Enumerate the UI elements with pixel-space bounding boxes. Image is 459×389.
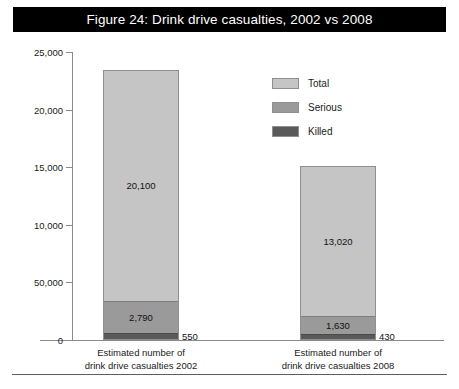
x-axis-category-2002-line2: drink drive casualties 2002 — [46, 360, 236, 373]
y-axis-tick-0 — [66, 340, 73, 341]
legend-item-serious[interactable]: Serious — [272, 95, 342, 119]
figure-container: Figure 24: Drink drive casualties, 2002 … — [0, 0, 459, 389]
legend-swatch-total-icon — [272, 78, 299, 89]
bar-2002-serious-value: 2,790 — [129, 312, 153, 323]
bar-2008-serious-value: 1,630 — [326, 320, 350, 331]
legend: Total Serious Killed — [272, 71, 342, 143]
y-axis-tick-10000 — [66, 225, 73, 226]
y-axis-tick-25000 — [66, 52, 73, 53]
bar-2008[interactable]: 13,020 1,630 430 — [300, 166, 376, 340]
y-axis-tick-20000 — [66, 110, 73, 111]
bar-2008-segment-total[interactable]: 13,020 — [301, 167, 375, 315]
bar-2002-segment-serious[interactable]: 2,790 — [104, 301, 178, 333]
bar-2002[interactable]: 20,100 2,790 550 — [103, 70, 179, 340]
legend-swatch-serious-icon — [272, 102, 299, 113]
x-axis-category-2008-line1: Estimated number of — [243, 347, 433, 360]
page-title: Figure 24: Drink drive casualties, 2002 … — [86, 12, 372, 27]
legend-item-total[interactable]: Total — [272, 71, 342, 95]
y-axis-tick-5000 — [66, 282, 73, 283]
x-axis-category-2008-line2: drink drive casualties 2008 — [243, 360, 433, 373]
bar-2002-total-value: 20,100 — [126, 180, 155, 191]
bar-2002-segment-killed[interactable]: 550 — [104, 333, 178, 339]
bar-2008-segment-killed[interactable]: 430 — [301, 334, 375, 339]
bar-2002-segment-total[interactable]: 20,100 — [104, 71, 178, 301]
legend-label-serious: Serious — [308, 102, 342, 113]
y-axis-label-5000: 50,000 — [34, 277, 63, 288]
x-axis-category-2002-line1: Estimated number of — [46, 347, 236, 360]
y-axis-line — [72, 52, 73, 340]
y-axis-label-20000: 20,000 — [34, 104, 63, 115]
y-axis-tick-15000 — [66, 167, 73, 168]
figure-title-bar: Figure 24: Drink drive casualties, 2002 … — [13, 7, 446, 32]
legend-item-killed[interactable]: Killed — [272, 119, 342, 143]
y-axis-label-10000: 10,000 — [34, 219, 63, 230]
bar-2008-segment-serious[interactable]: 1,630 — [301, 316, 375, 335]
legend-label-killed: Killed — [308, 126, 332, 137]
bar-2008-killed-value: 430 — [379, 331, 395, 342]
plot-area: 0 50,000 10,000 15,000 20,000 25,000 20,… — [0, 36, 459, 361]
x-axis-category-2008: Estimated number of drink drive casualti… — [243, 347, 433, 372]
x-axis-category-2002: Estimated number of drink drive casualti… — [46, 347, 236, 372]
legend-label-total: Total — [308, 78, 329, 89]
y-axis-label-0: 0 — [58, 335, 63, 346]
y-axis-label-25000: 25,000 — [34, 47, 63, 58]
footer-divider — [12, 374, 447, 375]
bar-2008-total-value: 13,020 — [323, 236, 352, 247]
bar-2002-killed-value: 550 — [182, 331, 198, 342]
legend-swatch-killed-icon — [272, 126, 299, 137]
y-axis-label-15000: 15,000 — [34, 162, 63, 173]
